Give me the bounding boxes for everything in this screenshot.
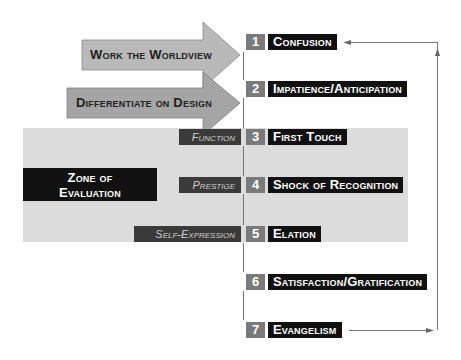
stage-number-5: 5 xyxy=(246,226,265,242)
stage-number-6: 6 xyxy=(246,274,265,290)
stage-label-evangelism: Evangelism xyxy=(268,322,342,338)
stage-number-3: 3 xyxy=(246,129,265,145)
stage-number-2: 2 xyxy=(246,81,265,97)
stage-label-first-touch: First Touch xyxy=(268,129,347,145)
zone-line-1: Zone of xyxy=(23,170,157,185)
stage-number-4: 4 xyxy=(246,177,265,193)
stage-label-elation: Elation xyxy=(268,226,321,242)
stage-number-1: 1 xyxy=(246,34,265,50)
zone-line-2: Evaluation xyxy=(23,185,157,200)
arrow-label-design: Differentiate on Design xyxy=(76,95,212,110)
stage-label-satisfaction: Satisfaction/Gratification xyxy=(268,274,427,290)
side-label-self-expression: Self-Expression xyxy=(134,226,241,242)
side-label-function: Function xyxy=(179,129,241,145)
arrow-label-worldview: Work the Worldview xyxy=(90,47,212,62)
stage-number-7: 7 xyxy=(246,322,265,338)
stage-label-shock: Shock of Recognition xyxy=(268,177,403,193)
stage-label-impatience: Impatience/Anticipation xyxy=(268,81,407,97)
zone-of-evaluation-label: Zone of Evaluation xyxy=(23,168,157,201)
side-label-prestige: Prestige xyxy=(179,177,241,193)
stage-label-confusion: Confusion xyxy=(268,34,337,50)
